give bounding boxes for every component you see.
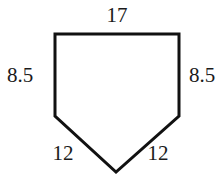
label-right-side: 8.5 xyxy=(189,63,215,87)
label-top-side: 17 xyxy=(107,3,128,27)
label-left-side: 8.5 xyxy=(7,63,33,87)
label-bottom-left-side: 12 xyxy=(53,141,74,165)
label-bottom-right-side: 12 xyxy=(148,141,169,165)
pentagon-diagram: 17 8.5 8.5 12 12 xyxy=(0,0,220,174)
